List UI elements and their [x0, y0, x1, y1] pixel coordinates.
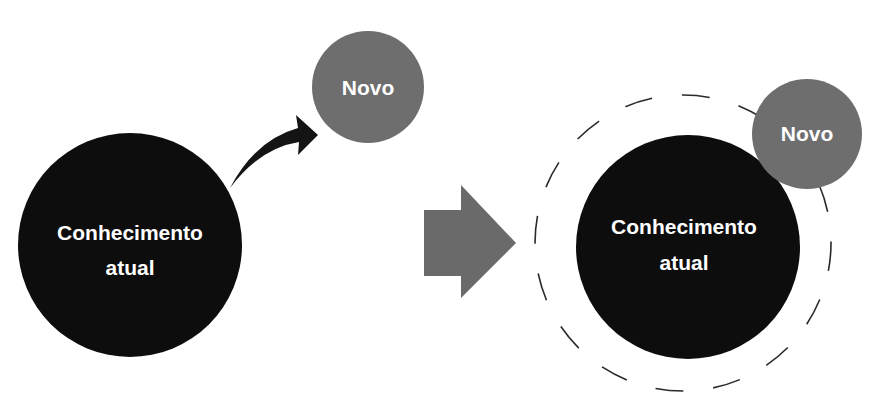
after-new-label: Novo	[781, 122, 834, 145]
before-new-label: Novo	[342, 76, 395, 99]
after-current-knowledge-label-line1: Conhecimento	[611, 215, 757, 238]
before-new-node: Novo	[312, 31, 424, 143]
knowledge-assimilation-diagram: Conhecimento atual Novo Conhecimento atu…	[0, 0, 882, 409]
before-current-knowledge-node: Conhecimento atual	[18, 133, 242, 357]
block-arrow-right-icon	[424, 185, 516, 298]
before-current-knowledge-label-line2: atual	[105, 256, 154, 279]
before-current-knowledge-circle	[18, 133, 242, 357]
curved-arrow-icon	[230, 115, 318, 188]
before-current-knowledge-label-line1: Conhecimento	[57, 221, 203, 244]
after-current-knowledge-label-line2: atual	[659, 251, 708, 274]
after-new-node: Novo	[752, 79, 862, 189]
